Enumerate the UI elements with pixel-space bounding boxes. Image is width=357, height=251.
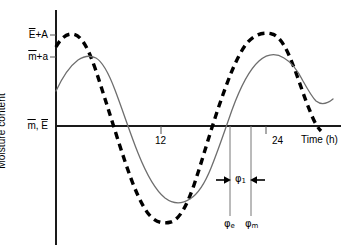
y-tick-label-m-plus-a-suffix: +a xyxy=(37,51,48,62)
y-tick-label-e-plus-a: E+A xyxy=(4,30,48,40)
axes xyxy=(56,10,341,245)
phase-moisture-label: φm xyxy=(245,219,258,230)
phase-evaporation-subscript: e xyxy=(231,222,235,230)
y-axis-title: Moisture content xyxy=(0,93,7,169)
moisture-phase-figure: Moisture content E+A m+a m, E 12 24 Time… xyxy=(0,0,357,251)
y-tick-label-m-plus-a: m+a xyxy=(4,52,48,62)
x-axis-title: Time (h) xyxy=(301,135,338,145)
phase-moisture-symbol: φ xyxy=(245,218,252,229)
y-tick-label-mean-level-e: E xyxy=(41,120,48,131)
y-tick-label-e-plus-a-suffix: +A xyxy=(35,29,48,40)
x-tick-label-24: 24 xyxy=(272,136,283,146)
phase-moisture-subscript: m xyxy=(252,222,259,230)
phase-leader-lines xyxy=(230,126,251,216)
phase-evaporation-label: φe xyxy=(224,219,235,230)
plot-canvas xyxy=(0,0,357,251)
y-tick-label-mean-level-suffix: , E xyxy=(36,120,48,131)
phase-difference-label: φ1 xyxy=(235,174,246,185)
y-tick-label-m-plus-a-base: m xyxy=(28,51,36,62)
x-tick-label-12: 12 xyxy=(155,136,166,146)
y-tick-label-mean-level-base: m xyxy=(27,120,35,131)
phase-evaporation-symbol: φ xyxy=(224,218,231,229)
phase-difference-symbol: φ xyxy=(235,173,242,184)
phase-difference-subscript: 1 xyxy=(242,177,246,185)
y-tick-label-mean-level: m, E xyxy=(4,121,48,131)
evaporation-curve xyxy=(56,33,321,223)
